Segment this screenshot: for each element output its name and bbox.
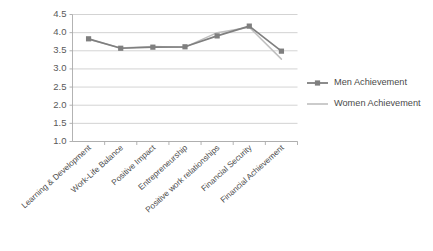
chart-container: 1.01.52.02.53.03.54.04.5 Learning & Deve…: [0, 0, 433, 251]
x-tick-label: Financial Achievement: [219, 143, 286, 205]
legend-label-men: Men Achievement: [334, 77, 407, 87]
data-point-marker: [86, 36, 91, 41]
y-tick-label: 2.0: [53, 99, 66, 110]
legend-label-women: Women Achievement: [334, 98, 421, 108]
data-series: [86, 24, 284, 60]
y-tick-label: 4.5: [53, 8, 66, 19]
y-tick-label: 1.0: [53, 135, 66, 146]
x-axis-tick-labels: Learning & DevelopmentWork-Life BalanceP…: [20, 143, 286, 215]
y-axis-tick-labels: 1.01.52.02.53.03.54.04.5: [53, 8, 66, 146]
y-tick-label: 4.0: [53, 26, 66, 37]
y-tick-label: 3.5: [53, 44, 66, 55]
line-chart: 1.01.52.02.53.03.54.04.5 Learning & Deve…: [0, 0, 433, 251]
data-point-marker: [150, 45, 155, 50]
data-point-marker: [279, 49, 284, 54]
y-tick-label: 2.5: [53, 81, 66, 92]
y-tick-label: 1.5: [53, 117, 66, 128]
data-point-marker: [215, 33, 220, 38]
y-tick-label: 3.0: [53, 62, 66, 73]
data-point-marker: [182, 44, 187, 49]
series-line-women: [89, 27, 282, 59]
data-point-marker: [118, 46, 123, 51]
chart-legend: Men AchievementWomen Achievement: [307, 77, 421, 108]
legend-swatch-marker: [315, 80, 320, 85]
axes: [70, 15, 298, 146]
data-point-marker: [247, 24, 252, 29]
gridlines: [73, 15, 298, 142]
